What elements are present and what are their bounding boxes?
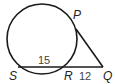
diagram-canvas: P S R Q 15 12 xyxy=(0,0,115,84)
label-r: R xyxy=(64,69,73,83)
length-rq: 12 xyxy=(79,70,91,82)
geometry-figure: P S R Q 15 12 xyxy=(0,0,115,84)
label-q: Q xyxy=(103,69,112,83)
label-p: P xyxy=(73,8,81,22)
length-sr: 15 xyxy=(38,54,50,66)
tangent-segment-pq xyxy=(76,29,103,67)
label-s: S xyxy=(9,69,17,83)
